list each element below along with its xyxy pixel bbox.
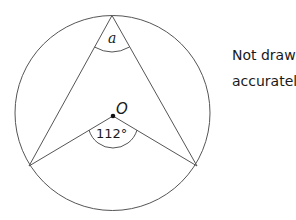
radius-left bbox=[29, 116, 113, 166]
note-line-1: Not drawn bbox=[232, 42, 296, 68]
chord-left bbox=[29, 16, 112, 167]
center-point bbox=[111, 114, 116, 119]
note-line-2: accurately bbox=[232, 68, 296, 94]
angle-label-a: a bbox=[108, 30, 116, 46]
chord-right bbox=[112, 16, 197, 167]
not-drawn-accurately-note: Not drawn accurately bbox=[232, 42, 296, 94]
angle-label-center: 112° bbox=[96, 126, 127, 141]
radius-right bbox=[113, 116, 197, 166]
center-label-o: O bbox=[116, 100, 128, 118]
circle-diagram: a O 112° bbox=[0, 0, 230, 220]
angle-arc-a bbox=[95, 47, 130, 52]
